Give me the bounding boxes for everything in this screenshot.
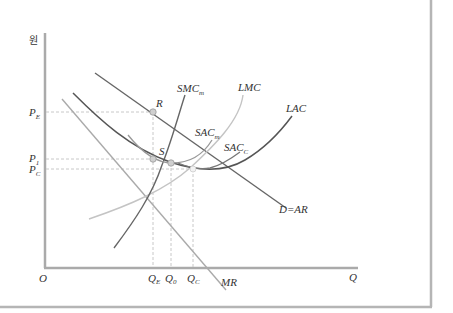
y-axis-label: 원: [29, 35, 38, 46]
sac-c-label: SACC: [224, 141, 249, 156]
point-s-label: S: [159, 145, 165, 157]
point-r: [150, 109, 156, 115]
lac-label: LAC: [285, 102, 307, 114]
quantity-label-qe: QE: [148, 272, 161, 286]
cost-curve-diagram: 원 O Q PE P1 PC QE Q0 QC SMCm LMC LAC SAC…: [0, 0, 453, 313]
smc-m-label: SMCm: [177, 82, 204, 97]
point-s: [150, 156, 156, 162]
price-label-pe: PE: [28, 106, 41, 121]
origin-label: O: [39, 272, 47, 284]
point-r-label: R: [155, 97, 163, 109]
quantity-label-q0: Q0: [165, 272, 177, 286]
sac-m-label: SACm: [195, 126, 220, 141]
x-axis-label: Q: [349, 271, 357, 283]
point-qc: [190, 166, 196, 172]
point-q0: [168, 160, 174, 166]
demand-label: D=AR: [278, 203, 308, 215]
mr-label: MR: [220, 276, 237, 288]
lmc-label: LMC: [237, 81, 261, 93]
quantity-label-qc: QC: [187, 272, 200, 286]
